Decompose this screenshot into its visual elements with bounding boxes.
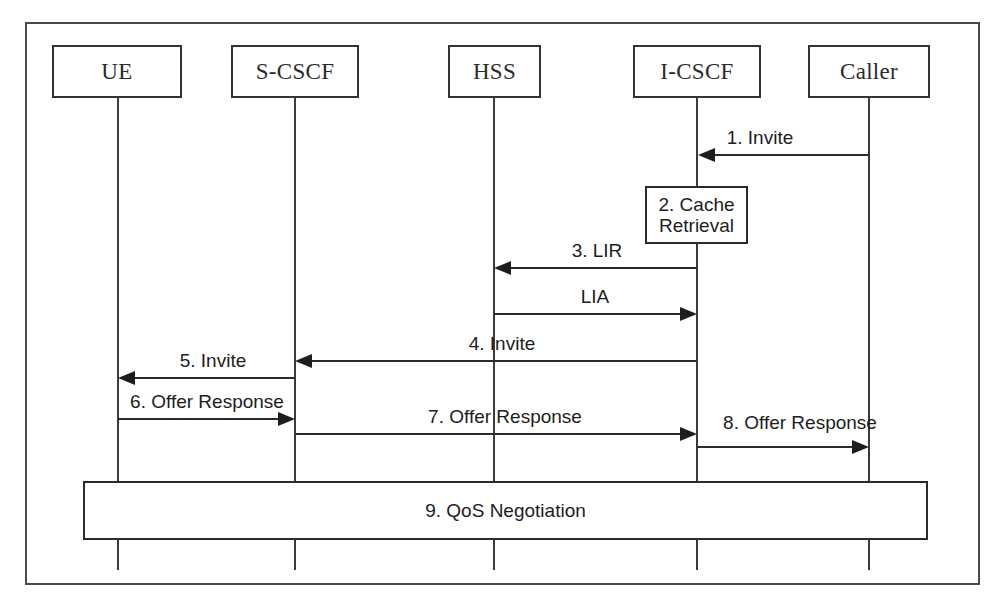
message-line-1 [702, 154, 869, 156]
message-line-lia [494, 313, 680, 315]
actor-box-hss[interactable]: HSS [448, 45, 541, 98]
message-arrowhead-lia [680, 307, 697, 321]
actor-box-icscf[interactable]: I-CSCF [633, 45, 761, 98]
message-arrowhead-3 [494, 261, 511, 275]
message-label-lia: LIA [530, 286, 660, 308]
actor-box-ue[interactable]: UE [52, 45, 182, 98]
actor-label-icscf: I-CSCF [660, 59, 733, 85]
message-line-4 [299, 360, 697, 362]
message-line-5 [122, 377, 295, 379]
message-arrowhead-5 [118, 371, 135, 385]
actor-box-scscf[interactable]: S-CSCF [231, 45, 359, 98]
message-arrowhead-7 [680, 427, 697, 441]
span-box-qos-negotiation[interactable]: 9. QoS Negotiation [83, 481, 928, 540]
action-box-line-2: Retrieval [658, 215, 734, 236]
message-line-7 [295, 433, 680, 435]
message-line-8 [697, 446, 852, 448]
actor-label-hss: HSS [473, 59, 516, 85]
span-box-label: 9. QoS Negotiation [425, 500, 586, 522]
actor-label-scscf: S-CSCF [256, 59, 335, 85]
message-arrowhead-8 [852, 440, 869, 454]
message-label-6: 6. Offer Response [112, 391, 302, 413]
message-line-3 [499, 267, 697, 269]
action-box-cache-retrieval[interactable]: 2. Cache Retrieval [645, 186, 748, 244]
actor-label-caller: Caller [840, 59, 898, 85]
actor-label-ue: UE [101, 59, 132, 85]
message-label-1: 1. Invite [700, 127, 820, 149]
message-label-4: 4. Invite [437, 333, 567, 355]
message-line-6 [118, 418, 278, 420]
message-label-8: 8. Offer Response [705, 412, 895, 434]
message-arrowhead-6 [278, 412, 295, 426]
message-label-5: 5. Invite [148, 350, 278, 372]
sequence-diagram-canvas: UE S-CSCF HSS I-CSCF Caller 1. Invite 2.… [0, 0, 1001, 607]
message-arrowhead-1 [698, 148, 715, 162]
message-label-3: 3. LIR [527, 240, 667, 262]
action-box-line-1: 2. Cache [658, 194, 734, 215]
actor-box-caller[interactable]: Caller [808, 45, 930, 98]
message-label-7: 7. Offer Response [410, 406, 600, 428]
message-arrowhead-4 [295, 354, 312, 368]
